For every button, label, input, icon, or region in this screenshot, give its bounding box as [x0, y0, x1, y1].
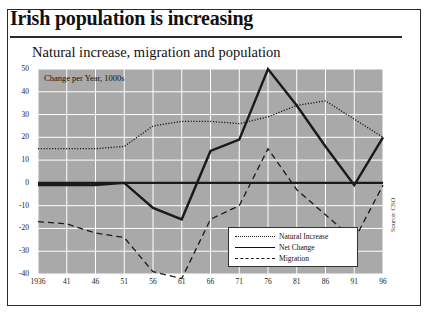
y-tick-label: -30: [3, 246, 29, 255]
x-tick-label: 56: [138, 277, 168, 286]
x-tick-label: 71: [224, 277, 254, 286]
x-tick-label: 61: [167, 277, 197, 286]
x-tick-label: 86: [311, 277, 341, 286]
legend-label-net-change: Net Change: [277, 243, 315, 252]
x-tick-label: 41: [52, 277, 82, 286]
y-tick-label: 20: [3, 132, 29, 141]
plot-annotation: Change per Year, 1000s: [44, 73, 125, 83]
y-tick-label: 0: [3, 178, 29, 187]
source-credit: Source: CSO: [389, 198, 396, 232]
x-tick-label: 76: [253, 277, 283, 286]
legend-swatch-migration: [233, 254, 277, 264]
legend-swatch-natural-increase: [233, 232, 277, 242]
y-tick-label: 50: [3, 64, 29, 73]
x-tick-label: 96: [368, 277, 398, 286]
y-tick-label: -20: [3, 223, 29, 232]
x-tick-label: 46: [81, 277, 111, 286]
x-tick-label: 81: [282, 277, 312, 286]
legend-label-natural-increase: Natural Increase: [277, 232, 328, 241]
legend-swatch-net-change: [233, 243, 277, 253]
y-tick-label: 40: [3, 87, 29, 96]
legend-label-migration: Migration: [277, 254, 309, 263]
x-tick-label: 66: [196, 277, 226, 286]
chart-legend: Natural Increase Net Change Migration: [228, 227, 358, 267]
legend-item-migration: Migration: [233, 253, 353, 264]
x-tick-label: 91: [339, 277, 369, 286]
legend-item-net-change: Net Change: [233, 242, 353, 253]
x-tick-label: 51: [109, 277, 139, 286]
x-tick-label: 1936: [23, 277, 53, 286]
legend-item-natural-increase: Natural Increase: [233, 231, 353, 242]
chart-area: Change per Year, 1000s 50403020100-10-20…: [0, 0, 414, 297]
y-tick-label: 10: [3, 155, 29, 164]
y-tick-label: 30: [3, 110, 29, 119]
y-tick-label: -10: [3, 201, 29, 210]
